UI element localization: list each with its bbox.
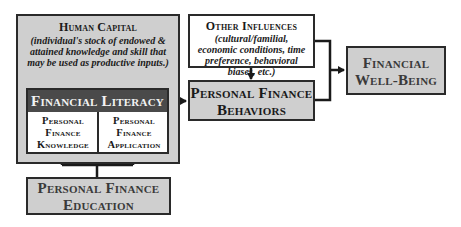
behaviors-line1: Personal Finance — [190, 85, 313, 102]
other-influences-title: Other Influences — [190, 20, 313, 33]
component-application: Personal Finance Application — [99, 115, 169, 151]
education-box: Personal Finance Education — [26, 177, 171, 215]
education-line2: Education — [28, 197, 169, 214]
financial-literacy-components: Personal Finance Knowledge Personal Fina… — [26, 112, 169, 154]
well-being-line2: Well-Being — [348, 72, 444, 89]
other-influences-description: (cultural/familial, economic conditions,… — [190, 33, 313, 77]
human-capital-title: Human Capital — [18, 21, 178, 34]
well-being-line1: Financial — [348, 55, 444, 72]
other-influences-box: Other Influences (cultural/familial, eco… — [188, 14, 315, 68]
behaviors-line2: Behaviors — [190, 102, 313, 119]
well-being-box: Financial Well-Being — [346, 46, 446, 95]
education-line1: Personal Finance — [28, 180, 169, 197]
financial-literacy-header: Financial Literacy — [26, 88, 169, 114]
human-capital-description: (individual's stock of endowed & attaine… — [18, 34, 178, 68]
bracket-to-wellbeing — [314, 41, 330, 100]
behaviors-box: Personal Finance Behaviors — [188, 80, 315, 121]
financial-literacy-title: Financial Literacy — [31, 93, 164, 109]
component-knowledge: Personal Finance Knowledge — [28, 115, 98, 151]
